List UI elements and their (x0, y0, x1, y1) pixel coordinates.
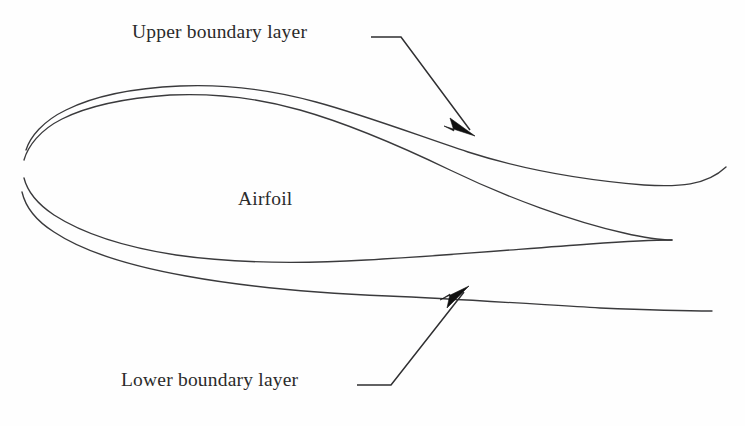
airfoil-label: Airfoil (238, 188, 292, 210)
figure-canvas (0, 0, 745, 426)
lower-boundary-layer-curve (22, 192, 712, 311)
airfoil-boundary-layer-figure: Upper boundary layer Lower boundary laye… (0, 0, 745, 426)
upper-boundary-layer-label: Upper boundary layer (132, 21, 307, 43)
lower-boundary-layer-label: Lower boundary layer (121, 369, 298, 391)
airfoil-upper-surface-curve (24, 95, 672, 240)
upper-boundary-layer-curve (26, 86, 726, 186)
upper-label-leader-line (371, 37, 470, 130)
upper-label-arrowhead-icon (444, 118, 475, 136)
